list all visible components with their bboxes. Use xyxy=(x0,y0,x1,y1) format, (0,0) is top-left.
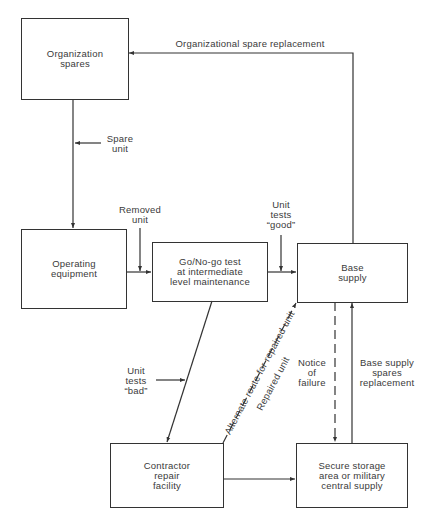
label-tests-bad: Unit tests “bad” xyxy=(120,366,152,396)
node-label: Contractor repair facility xyxy=(144,461,190,491)
node-go-nogo-test: Go/No-go test at intermediate level main… xyxy=(152,242,268,302)
label-base-supply-spares-replacement: Base supply spares replacement xyxy=(355,358,419,388)
node-label: Secure storage area or military central … xyxy=(318,461,385,491)
node-contractor-repair: Contractor repair facility xyxy=(110,443,224,508)
node-label: Organization spares xyxy=(47,49,103,69)
label-org-spare-replacement: Organizational spare replacement xyxy=(160,39,340,49)
label-removed-unit: Removed unit xyxy=(117,205,163,225)
edge-tests-bad xyxy=(167,301,212,442)
node-label: Operating equipment xyxy=(51,259,97,279)
node-base-supply: Base supply xyxy=(297,243,408,303)
node-label: Base supply xyxy=(338,263,367,283)
label-tests-good: Unit tests “good” xyxy=(260,200,302,230)
node-secure-storage: Secure storage area or military central … xyxy=(296,443,408,508)
label-spare-unit: Spare unit xyxy=(102,134,138,154)
node-label: Go/No-go test at intermediate level main… xyxy=(170,257,250,287)
label-notice-of-failure: Notice of failure xyxy=(292,358,332,388)
node-operating-equipment: Operating equipment xyxy=(21,229,127,309)
node-organization-spares: Organization spares xyxy=(21,18,129,100)
